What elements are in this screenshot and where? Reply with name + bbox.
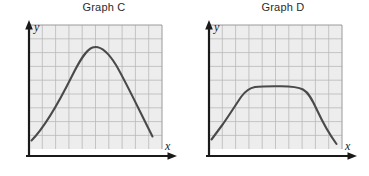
graph-d-plot: y x bbox=[185, 0, 369, 176]
graph-panel-d: Graph D bbox=[185, 0, 369, 176]
graph-c-x-axis-label: x bbox=[164, 139, 171, 153]
graph-c-x-axis bbox=[26, 152, 177, 160]
graph-d-x-axis bbox=[206, 152, 357, 160]
graph-d-x-axis-label: x bbox=[344, 139, 351, 153]
worksheet-figure: Graph C bbox=[0, 0, 369, 176]
graph-panel-c: Graph C bbox=[0, 0, 184, 176]
graph-d-y-axis-label: y bbox=[213, 20, 220, 34]
graph-c-plot: y x bbox=[0, 0, 184, 176]
graph-c-y-axis-label: y bbox=[33, 20, 40, 34]
